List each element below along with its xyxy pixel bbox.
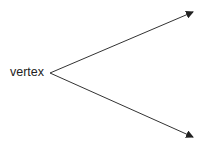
upper-ray-arrow [50, 12, 193, 73]
lower-ray-arrow [50, 73, 193, 137]
vertex-label: vertex [10, 64, 44, 80]
